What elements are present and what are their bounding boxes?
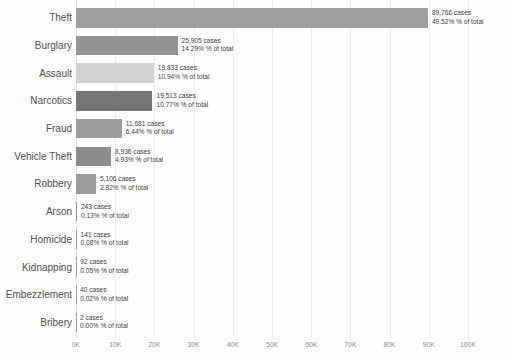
bar-value-label: 40 cases 0.02% % of total (80, 286, 128, 303)
bar[interactable] (76, 230, 77, 250)
bar-cases-label: 243 cases (81, 203, 129, 212)
x-axis: 0K10K20K30K40K50K60K70K80K90K100K (76, 339, 468, 353)
bar-chart: Theft 89,766 cases 49.52% % of total Bur… (0, 0, 508, 360)
bar-cases-label: 25,905 cases (182, 37, 234, 46)
bar-value-label: 89,766 cases 49.52% % of total (432, 9, 484, 26)
plot-cell: 141 cases 0.08% % of total (76, 230, 468, 250)
bar-pct-label: 4.93% % of total (115, 156, 163, 165)
bar-pct-label: 10.94% % of total (158, 73, 210, 82)
bar-value-label: 2 cases 0.00% % of total (80, 314, 128, 331)
bar-cases-label: 19,833 cases (158, 64, 210, 73)
x-tick-label: 20K (148, 341, 160, 348)
category-label: Embezzlement (0, 289, 76, 300)
bar-value-label: 243 cases 0.13% % of total (81, 203, 129, 220)
category-label: Assault (0, 68, 76, 79)
bar-pct-label: 10.77% % of total (156, 101, 208, 110)
x-tick-label: 90K (423, 341, 435, 348)
category-label: Burglary (0, 40, 76, 51)
bar-value-label: 8,936 cases 4.93% % of total (115, 148, 163, 165)
plot-cell: 243 cases 0.13% % of total (76, 202, 468, 222)
x-tick-label: 70K (344, 341, 356, 348)
bar[interactable] (76, 119, 122, 139)
chart-row: Theft 89,766 cases 49.52% % of total (0, 4, 508, 32)
bar-pct-label: 49.52% % of total (432, 18, 484, 27)
plot-cell: 19,513 cases 10.77% % of total (76, 91, 468, 111)
chart-row: Vehicle Theft 8,936 cases 4.93% % of tot… (0, 142, 508, 170)
x-tick-label: 80K (384, 341, 396, 348)
bar[interactable] (76, 147, 111, 167)
x-tick-label: 10K (109, 341, 121, 348)
bar-cases-label: 141 cases (81, 231, 129, 240)
bar[interactable] (76, 285, 77, 305)
bar-pct-label: 0.08% % of total (81, 239, 129, 248)
bar-cases-label: 40 cases (80, 286, 128, 295)
bar[interactable] (76, 63, 154, 83)
category-label: Narcotics (0, 95, 76, 106)
plot-cell: 92 cases 0.05% % of total (76, 257, 468, 277)
category-label: Kidnapping (0, 262, 76, 273)
plot-cell: 5,106 cases 2.82% % of total (76, 174, 468, 194)
bar-cases-label: 89,766 cases (432, 9, 484, 18)
bar-cases-label: 2 cases (80, 314, 128, 323)
plot-cell: 11,681 cases 6.44% % of total (76, 119, 468, 139)
bar-pct-label: 0.02% % of total (80, 295, 128, 304)
bar-value-label: 5,106 cases 2.82% % of total (100, 175, 148, 192)
x-tick-label: 100K (460, 341, 476, 348)
chart-row: Narcotics 19,513 cases 10.77% % of total (0, 87, 508, 115)
chart-row: Embezzlement 40 cases 0.02% % of total (0, 281, 508, 309)
bar-cases-label: 19,513 cases (156, 92, 208, 101)
bar[interactable] (76, 257, 77, 277)
chart-rows: Theft 89,766 cases 49.52% % of total Bur… (0, 4, 508, 336)
chart-row: Assault 19,833 cases 10.94% % of total (0, 59, 508, 87)
chart-row: Fraud 11,681 cases 6.44% % of total (0, 115, 508, 143)
bar-pct-label: 0.00% % of total (80, 322, 128, 331)
bar-value-label: 19,513 cases 10.77% % of total (156, 92, 208, 109)
bar-pct-label: 14.29% % of total (182, 45, 234, 54)
category-label: Vehicle Theft (0, 151, 76, 162)
bar-pct-label: 6.44% % of total (126, 128, 174, 137)
chart-row: Burglary 25,905 cases 14.29% % of total (0, 32, 508, 60)
bar-value-label: 11,681 cases 6.44% % of total (126, 120, 174, 137)
bar-cases-label: 8,936 cases (115, 148, 163, 157)
bar-pct-label: 0.13% % of total (81, 212, 129, 221)
chart-row: Bribery 2 cases 0.00% % of total (0, 309, 508, 337)
category-label: Bribery (0, 317, 76, 328)
x-tick-label: 60K (305, 341, 317, 348)
x-tick-label: 30K (188, 341, 200, 348)
bar-value-label: 141 cases 0.08% % of total (81, 231, 129, 248)
category-label: Robbery (0, 178, 76, 189)
plot-cell: 25,905 cases 14.29% % of total (76, 36, 468, 56)
category-label: Arson (0, 206, 76, 217)
bar-value-label: 92 cases 0.05% % of total (80, 258, 128, 275)
bar-value-label: 19,833 cases 10.94% % of total (158, 64, 210, 81)
category-label: Theft (0, 12, 76, 23)
bar-cases-label: 11,681 cases (126, 120, 174, 129)
plot-cell: 2 cases 0.00% % of total (76, 313, 468, 333)
bar[interactable] (76, 174, 96, 194)
chart-row: Robbery 5,106 cases 2.82% % of total (0, 170, 508, 198)
x-tick-label: 0K (72, 341, 80, 348)
bar-pct-label: 2.82% % of total (100, 184, 148, 193)
bar-value-label: 25,905 cases 14.29% % of total (182, 37, 234, 54)
bar[interactable] (76, 36, 178, 56)
plot-cell: 89,766 cases 49.52% % of total (76, 8, 468, 28)
x-tick-label: 50K (266, 341, 278, 348)
bar-cases-label: 92 cases (80, 258, 128, 267)
plot-cell: 40 cases 0.02% % of total (76, 285, 468, 305)
category-label: Fraud (0, 123, 76, 134)
x-tick-label: 40K (227, 341, 239, 348)
chart-row: Homicide 141 cases 0.08% % of total (0, 226, 508, 254)
category-label: Homicide (0, 234, 76, 245)
bar-pct-label: 0.05% % of total (80, 267, 128, 276)
bar[interactable] (76, 91, 152, 111)
plot-cell: 8,936 cases 4.93% % of total (76, 147, 468, 167)
chart-row: Arson 243 cases 0.13% % of total (0, 198, 508, 226)
bar[interactable] (76, 313, 77, 333)
plot-cell: 19,833 cases 10.94% % of total (76, 63, 468, 83)
bar[interactable] (76, 8, 428, 28)
bar-cases-label: 5,106 cases (100, 175, 148, 184)
bar[interactable] (76, 202, 77, 222)
chart-row: Kidnapping 92 cases 0.05% % of total (0, 253, 508, 281)
